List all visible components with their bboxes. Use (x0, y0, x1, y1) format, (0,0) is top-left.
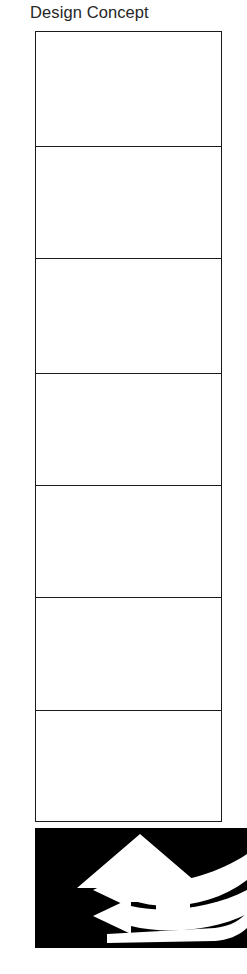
concept-cell-2[interactable] (36, 147, 222, 259)
concept-cell-5-text (36, 486, 221, 491)
concept-cell-6[interactable] (36, 598, 222, 711)
concept-cell-1[interactable] (36, 32, 222, 147)
page-title: Design Concept (30, 1, 149, 23)
table-row (36, 259, 222, 374)
concept-cell-7[interactable] (36, 711, 222, 822)
concept-cell-3[interactable] (36, 259, 222, 374)
concept-cell-7-text (36, 711, 221, 716)
concept-cell-2-text (36, 147, 221, 152)
concept-table (35, 31, 222, 822)
up-arrow-house-shape (77, 834, 203, 920)
table-row (36, 598, 222, 711)
house-arrow-illustration (35, 828, 247, 948)
table-row (36, 374, 222, 486)
page-root: Design Concept (0, 0, 247, 974)
concept-cell-1-text (36, 32, 221, 37)
table-row (36, 711, 222, 822)
concept-cell-6-text (36, 598, 221, 603)
table-row (36, 486, 222, 598)
table-row (36, 32, 222, 147)
concept-cell-4[interactable] (36, 374, 222, 486)
illustration-band (35, 828, 247, 948)
concept-cell-3-text (36, 259, 221, 264)
concept-cell-4-text (36, 374, 221, 379)
concept-table-body (36, 32, 222, 822)
table-row (36, 147, 222, 259)
concept-cell-5[interactable] (36, 486, 222, 598)
